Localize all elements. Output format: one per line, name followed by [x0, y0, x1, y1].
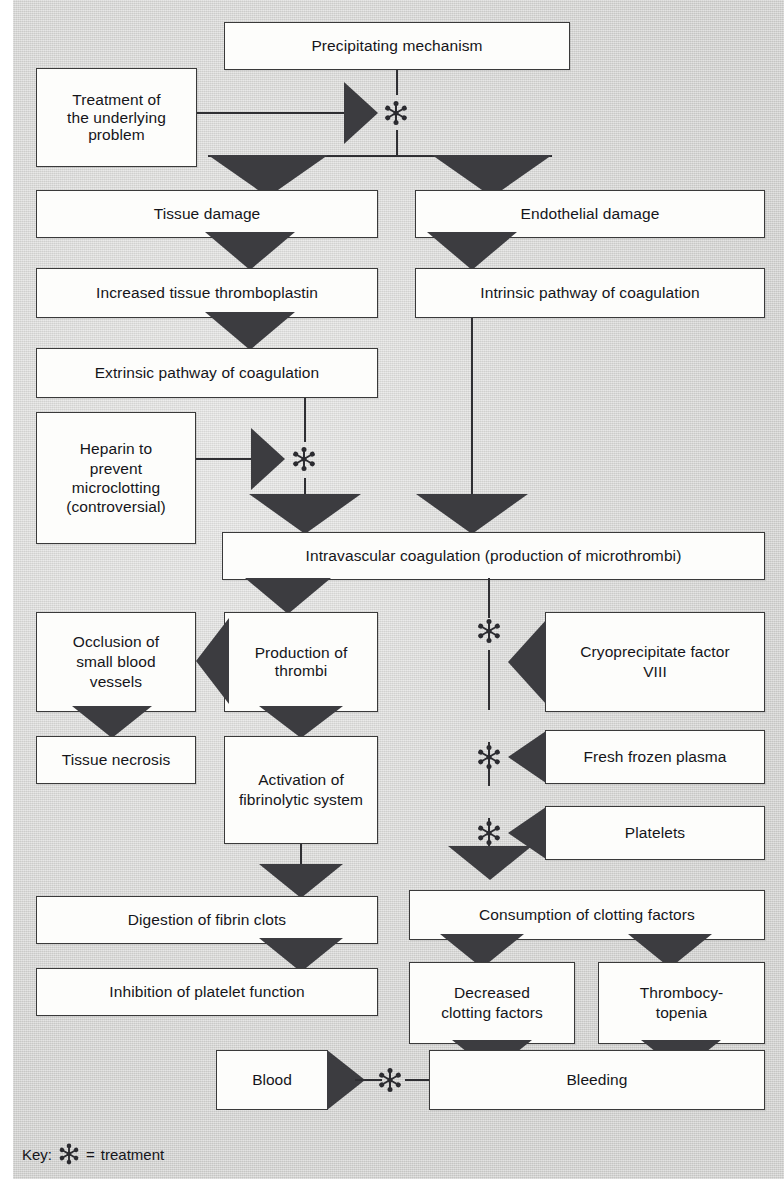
node-label: Precipitating mechanism	[311, 37, 482, 55]
node-intrinsic-pathway: Intrinsic pathway of coagulation	[415, 268, 765, 318]
connector-intravascular-right-down	[488, 578, 490, 618]
arrow-heparin-right	[251, 428, 285, 490]
node-decreased-clotting-factors: Decreased clotting factors	[409, 962, 575, 1044]
node-platelets: Platelets	[545, 806, 765, 860]
arrow-tissue-to-thromboplastin	[205, 232, 295, 270]
treatment-asterisk-icon	[476, 820, 502, 846]
node-intravascular-coagulation: Intravascular coagulation (production of…	[222, 532, 765, 580]
node-thrombocytopenia: Thrombocy- topenia	[598, 962, 765, 1044]
arrow-digestion-to-inhibition	[259, 938, 343, 972]
node-digestion-of-fibrin-clots: Digestion of fibrin clots	[36, 896, 378, 944]
arrow-thrombi-to-fibrinolytic	[259, 706, 343, 738]
node-label: Bleeding	[566, 1071, 627, 1089]
arrow-cryoprecipitate-left	[508, 620, 546, 704]
key-meaning: treatment	[101, 1146, 164, 1163]
connector-treatment-to-mechanism	[197, 112, 344, 114]
treatment-asterisk-icon	[377, 1067, 403, 1093]
node-blood: Blood	[216, 1050, 366, 1110]
treatment-asterisk-icon	[58, 1143, 80, 1165]
node-activation-fibrinolytic-system: Activation of fibrinolytic system	[224, 736, 378, 844]
node-label: Endothelial damage	[521, 205, 660, 223]
node-label: Platelets	[625, 824, 685, 842]
arrow-thrombi-to-occlusion	[196, 618, 229, 704]
treatment-asterisk-icon	[476, 744, 502, 770]
key-legend: Key: = treatment	[22, 1143, 164, 1165]
node-label: Tissue damage	[154, 205, 261, 223]
node-increased-tissue-thromboplastin: Increased tissue thromboplastin	[36, 268, 378, 318]
node-label: Consumption of clotting factors	[479, 906, 695, 924]
node-label: Activation of fibrinolytic system	[239, 770, 363, 810]
connector-precipitating-down	[396, 70, 398, 95]
connector-asterisk-to-bleeding	[405, 1079, 430, 1081]
treatment-asterisk-icon	[383, 100, 409, 126]
node-consumption-of-clotting-factors: Consumption of clotting factors	[409, 890, 765, 940]
key-equals: =	[86, 1146, 95, 1163]
node-tissue-necrosis: Tissue necrosis	[36, 736, 196, 784]
node-precipitating-mechanism: Precipitating mechanism	[224, 22, 570, 70]
node-label: Treatment of the underlying problem	[67, 91, 166, 144]
arrow-intrinsic-to-intravascular	[416, 494, 528, 534]
node-tissue-damage: Tissue damage	[36, 190, 378, 238]
node-cryoprecipitate-factor-viii: Cryoprecipitate factor VIII	[545, 612, 765, 712]
node-label: Inhibition of platelet function	[109, 983, 304, 1001]
arrow-treatment-right	[344, 82, 378, 144]
node-label: Cryoprecipitate factor VIII	[580, 642, 730, 682]
node-label: Blood	[216, 1071, 328, 1089]
arrow-intravascular-to-thrombi	[245, 578, 331, 614]
node-fresh-frozen-plasma: Fresh frozen plasma	[545, 730, 765, 784]
arrow-extrinsic-to-intravascular	[249, 494, 361, 534]
node-bleeding: Bleeding	[429, 1050, 765, 1110]
arrow-occlusion-to-necrosis	[72, 706, 152, 738]
node-occlusion-small-vessels: Occlusion of small blood vessels	[36, 612, 196, 712]
node-label: Digestion of fibrin clots	[128, 911, 286, 929]
arrow-endothelial-to-intrinsic	[427, 232, 517, 270]
arrow-to-digestion-fibrin	[259, 864, 343, 898]
node-label: Thrombocy- topenia	[640, 983, 724, 1023]
node-label: Decreased clotting factors	[441, 983, 543, 1023]
arrow-thromboplastin-to-extrinsic	[205, 312, 295, 350]
node-endothelial-damage: Endothelial damage	[415, 190, 765, 238]
node-extrinsic-pathway: Extrinsic pathway of coagulation	[36, 348, 378, 398]
node-label: Heparin to prevent microclotting (contro…	[66, 439, 166, 517]
node-heparin: Heparin to prevent microclotting (contro…	[36, 412, 196, 544]
key-label: Key:	[22, 1146, 52, 1163]
connector-precipitating-down-2	[396, 130, 398, 156]
node-treatment-underlying-problem: Treatment of the underlying problem	[36, 68, 197, 167]
node-production-of-thrombi: Production of thrombi	[224, 612, 378, 712]
node-label: Intravascular coagulation (production of…	[306, 547, 682, 565]
arrow-ffp-left	[508, 731, 546, 783]
node-label: Occlusion of small blood vessels	[73, 632, 160, 692]
treatment-asterisk-icon	[476, 618, 502, 644]
diagram-page: Precipitating mechanism Treatment of the…	[0, 0, 784, 1179]
arrow-to-consumption-clotting	[448, 846, 532, 880]
node-label: Extrinsic pathway of coagulation	[95, 364, 320, 382]
connector-right-seg-2	[488, 650, 490, 710]
node-label: Intrinsic pathway of coagulation	[480, 284, 699, 302]
node-label: Production of thrombi	[229, 644, 373, 680]
node-label: Fresh frozen plasma	[583, 748, 726, 766]
treatment-asterisk-icon	[291, 446, 317, 472]
connector-heparin-to-junction	[196, 458, 252, 460]
node-inhibition-of-platelet-function: Inhibition of platelet function	[36, 968, 378, 1016]
connector-intrinsic-long-down	[471, 318, 473, 494]
node-label: Tissue necrosis	[62, 751, 171, 769]
node-label: Increased tissue thromboplastin	[96, 284, 318, 302]
connector-extrinsic-down	[304, 398, 306, 442]
